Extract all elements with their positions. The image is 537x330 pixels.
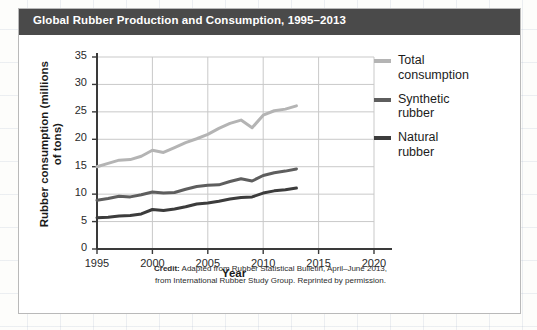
y-axis-tick-label: 10 [61, 186, 87, 198]
y-axis-tick-label: 35 [61, 49, 87, 61]
series-line [97, 188, 296, 218]
y-axis-tick-label: 30 [61, 76, 87, 88]
figure-card: Global Rubber Production and Consumption… [18, 8, 521, 314]
series-line [97, 106, 296, 167]
figure-title-bar: Global Rubber Production and Consumption… [19, 9, 520, 35]
chart-legend: Total consumptionSynthetic rubberNatural… [374, 53, 514, 169]
y-axis-tick-label: 20 [61, 131, 87, 143]
legend-swatch-icon [374, 59, 391, 63]
credit-line-1: Adapted from Rubber Statistical Bulletin… [180, 264, 387, 273]
credit-note: Credit: Adapted from Rubber Statistical … [19, 263, 522, 286]
series-line [97, 169, 296, 200]
legend-item: Synthetic rubber [374, 92, 514, 122]
legend-item-label: Natural rubber [398, 130, 438, 160]
legend-item-label: Total consumption [398, 53, 469, 83]
figure-title: Global Rubber Production and Consumption… [33, 14, 346, 26]
credit-label: Credit: [154, 264, 180, 273]
y-axis-tick-label: 15 [61, 159, 87, 171]
y-axis-tick-label: 0 [61, 241, 87, 253]
credit-line-2: from International Rubber Study Group. R… [155, 276, 386, 285]
legend-swatch-icon [374, 98, 391, 102]
y-axis-tick-label: 25 [61, 104, 87, 116]
legend-item: Total consumption [374, 53, 514, 83]
legend-item-label: Synthetic rubber [398, 92, 449, 122]
legend-item: Natural rubber [374, 130, 514, 160]
legend-swatch-icon [374, 136, 391, 140]
y-axis-tick-label: 5 [61, 214, 87, 226]
